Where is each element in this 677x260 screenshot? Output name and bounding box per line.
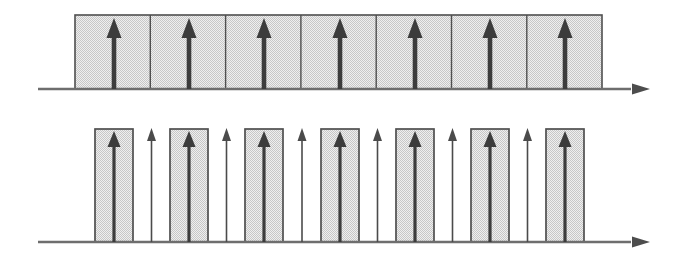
sampling-diagram-figure — [0, 0, 677, 260]
bottom-thin-impulse-arrow-head-icon — [298, 128, 307, 141]
bottom-thin-impulse-arrow-head-icon — [373, 128, 382, 141]
bottom-row-impulse-train — [38, 128, 650, 248]
top-axis-arrowhead-icon — [632, 84, 650, 95]
top-row-sample-and-hold — [38, 15, 650, 95]
bottom-axis-arrowhead-icon — [632, 237, 650, 248]
bottom-thin-impulse-arrow-head-icon — [448, 128, 457, 141]
bottom-thin-impulse-arrow-head-icon — [222, 128, 231, 141]
sampling-diagram-canvas — [0, 0, 677, 260]
bottom-thin-impulse-arrow-head-icon — [523, 128, 532, 141]
bottom-thin-impulse-arrow-head-icon — [147, 128, 156, 141]
